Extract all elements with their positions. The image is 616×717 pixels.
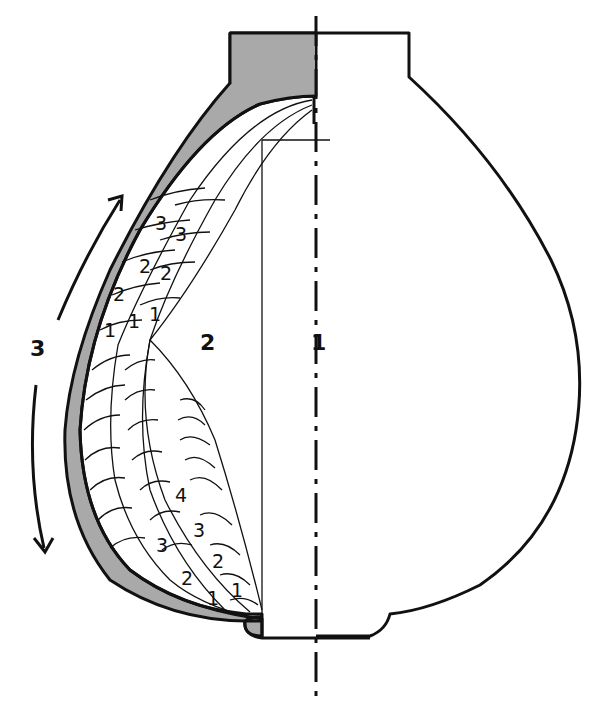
vessel-outline-right: [316, 33, 580, 636]
layer-label: 1: [207, 587, 219, 609]
layer-label: 3: [156, 534, 168, 556]
layer-boundary-inner-lower: [145, 340, 250, 612]
axis-label: 1: [311, 330, 326, 355]
rotation-label: 3: [30, 336, 45, 361]
layer-label: 1: [104, 319, 116, 341]
layer-boundary-outer: [111, 100, 312, 617]
layer-label: 2: [160, 262, 172, 284]
cavity-label: 2: [200, 330, 215, 355]
layer-label: 3: [193, 519, 205, 541]
layer-label: 2: [139, 255, 151, 277]
layer-label: 1: [128, 310, 140, 332]
layer-label: 2: [113, 283, 125, 305]
arrow-up-icon: [58, 200, 120, 320]
layer-label: 1: [149, 303, 161, 325]
vessel-diagram: 3 2 1 3 2 2 1 3 2 1 1 4 3 2 1 3 2 1: [0, 0, 616, 717]
vessel-neck: [231, 34, 315, 104]
layer-label: 1: [231, 579, 243, 601]
layer-label: 2: [212, 550, 224, 572]
arrow-down-icon: [32, 385, 44, 548]
layer-label: 3: [175, 223, 187, 245]
vessel-wall-left: [65, 33, 316, 636]
layer-label: 4: [175, 484, 187, 506]
layer-label: 2: [181, 567, 193, 589]
layer-label: 3: [155, 212, 167, 234]
layer-boundary-inner: [150, 110, 312, 610]
